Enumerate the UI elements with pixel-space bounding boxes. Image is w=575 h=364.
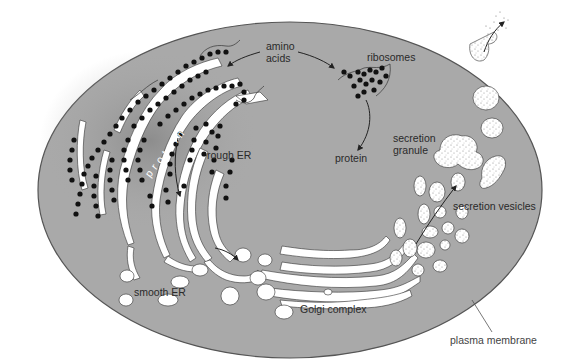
amino-acids-label: amino acids (266, 40, 295, 64)
amino-line2: acids (266, 52, 295, 64)
secretion-granule-label: secretion granule (393, 132, 436, 156)
ribosomes-label: ribosomes (367, 51, 415, 63)
amino-line1: amino (266, 40, 295, 52)
granule-line1: secretion (393, 132, 436, 144)
protein-label: protein (335, 152, 367, 164)
plasma-membrane-label: plasma membrane (450, 334, 537, 346)
secretion-vesicles-label: secretion vesicles (453, 200, 536, 212)
granule-line2: granule (393, 144, 436, 156)
smooth-er-label: smooth ER (134, 286, 186, 298)
plasma-membrane-leader (472, 300, 492, 332)
golgi-complex-label: Golgi complex (300, 303, 367, 315)
rough-er-label: rough ER (207, 149, 251, 161)
